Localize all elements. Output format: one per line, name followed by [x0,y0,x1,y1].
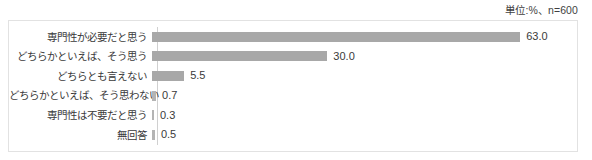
plot-area: 専門性が必要だと思う 63.0 どちらかといえば、そう思う 30.0 どちらとも… [9,21,577,151]
value-label: 0.5 [161,129,176,140]
unit-note: 単位:%、n=600 [505,2,578,17]
value-label: 30.0 [333,51,354,62]
bar [152,110,154,120]
category-label: 専門性は不要だと思う [9,110,152,121]
bar-row: 専門性が必要だと思う 63.0 [9,27,577,47]
category-label: 専門性が必要だと思う [9,32,152,43]
chart-page: 単位:%、n=600 専門性が必要だと思う 63.0 どちらかといえば、そう思う… [0,0,592,160]
value-label: 0.7 [162,90,177,101]
bar-area: 30.0 [152,47,577,67]
bar-rows: 専門性が必要だと思う 63.0 どちらかといえば、そう思う 30.0 どちらとも… [9,27,577,145]
bar-row: 専門性は不要だと思う 0.3 [9,105,577,125]
bar-area: 0.7 [152,86,577,106]
category-label: どちらかといえば、そう思う [9,51,152,62]
bar-area: 5.5 [152,66,577,86]
value-label: 5.5 [190,70,205,81]
chart-frame: 専門性が必要だと思う 63.0 どちらかといえば、そう思う 30.0 どちらとも… [8,20,578,152]
bar [152,91,156,101]
bar-area: 63.0 [152,27,577,47]
value-label: 63.0 [526,31,547,42]
category-label: どちらかといえば、そう思わない [9,90,152,101]
bar [152,51,327,61]
bar-row: どちらかといえば、そう思う 30.0 [9,47,577,67]
bar-row: どちらかといえば、そう思わない 0.7 [9,86,577,106]
bar [152,32,520,42]
bar-row: 無回答 0.5 [9,125,577,145]
bar-area: 0.5 [152,125,577,145]
bar [152,130,155,140]
category-label: 無回答 [9,130,152,141]
bar-row: どちらとも言えない 5.5 [9,66,577,86]
bar-area: 0.3 [152,105,577,125]
bar [152,71,184,81]
category-label: どちらとも言えない [9,71,152,82]
value-label: 0.3 [160,110,175,121]
